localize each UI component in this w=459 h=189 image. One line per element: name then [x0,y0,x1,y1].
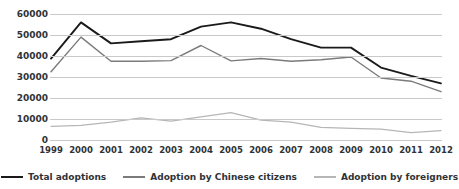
legend-label: Adoption by foreigners [341,172,458,182]
x-axis-tick-label: 2001 [94,145,128,155]
x-axis-tick-label: 2009 [334,145,368,155]
gridline [50,14,442,15]
chart-legend: Total adoptionsAdoption by Chinese citiz… [0,168,459,186]
legend-swatch-line-icon [123,176,145,178]
x-axis-tick-label: 2011 [394,145,428,155]
y-axis-tick-label: 10000 [2,115,48,124]
y-axis-tick-label: 0 [2,136,48,145]
y-axis-tick-label: 50000 [2,31,48,40]
series-line [51,37,441,92]
x-axis-tick-label: 2002 [124,145,158,155]
y-axis: 0100002000030000400005000060000 [0,0,48,160]
legend-swatch-line-icon [314,176,336,178]
x-axis-tick-label: 1999 [34,145,68,155]
x-axis-tick-label: 2003 [154,145,188,155]
x-axis-tick-label: 2006 [244,145,278,155]
series-line [51,113,441,133]
legend-item[interactable]: Total adoptions [1,172,106,182]
x-axis-tick-label: 2007 [274,145,308,155]
y-axis-tick-label: 30000 [2,73,48,82]
legend-label: Total adoptions [28,172,106,182]
y-axis-tick-label: 40000 [2,52,48,61]
x-axis-tick-label: 2008 [304,145,338,155]
legend-swatch-line-icon [1,176,23,179]
gridline [50,98,442,99]
x-axis-tick-label: 2005 [214,145,248,155]
chart-title-cropped [0,0,459,6]
series-line [51,22,441,83]
gridline [50,35,442,36]
x-axis-tick-label: 2004 [184,145,218,155]
legend-item[interactable]: Adoption by Chinese citizens [123,172,297,182]
y-axis-tick-label: 60000 [2,10,48,19]
gridline [50,140,442,141]
x-axis: 1999200020012002200320042005200620072008… [50,145,442,157]
x-axis-tick-label: 2000 [64,145,98,155]
x-axis-tick-label: 2010 [364,145,398,155]
gridline [50,56,442,57]
chart-figure: 0100002000030000400005000060000 19992000… [0,0,459,189]
legend-item[interactable]: Adoption by foreigners [314,172,458,182]
plot-area [50,14,442,140]
x-axis-tick-label: 2012 [424,145,458,155]
legend-label: Adoption by Chinese citizens [150,172,297,182]
gridline [50,77,442,78]
gridline [50,119,442,120]
y-axis-tick-label: 20000 [2,94,48,103]
